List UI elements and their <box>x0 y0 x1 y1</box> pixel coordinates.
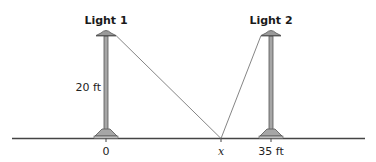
light-2-label: Light 2 <box>249 14 292 27</box>
street-light-diagram: Light 1 Light 2 20 ft 0 x 35 ft <box>0 0 376 162</box>
point-x-label: x <box>218 145 225 158</box>
light-2-pole <box>259 31 283 143</box>
pole-base-icon <box>260 129 282 136</box>
distance-label: 35 ft <box>258 145 284 158</box>
line-light2-to-x <box>221 36 261 139</box>
height-label: 20 ft <box>76 81 102 94</box>
lamp-head-icon <box>261 31 281 36</box>
lamp-head-icon <box>96 31 116 36</box>
line-light1-to-x <box>116 36 221 139</box>
pole-base-icon <box>95 129 117 136</box>
light-1-label: Light 1 <box>84 14 127 27</box>
origin-label: 0 <box>103 145 110 158</box>
